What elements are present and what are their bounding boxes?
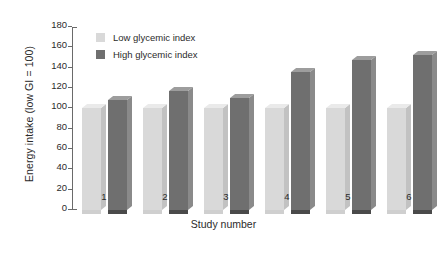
bar: [291, 72, 310, 210]
y-axis-tick-label: 40: [56, 161, 67, 172]
bar-side-face: [188, 87, 193, 210]
bar-side-face: [127, 96, 132, 210]
legend: Low glycemic indexHigh glycemic index: [96, 30, 197, 64]
x-axis-tick-label: 5: [333, 191, 363, 202]
y-axis-tick-label: 20: [56, 182, 67, 193]
x-axis-title: Study number: [0, 218, 447, 230]
x-axis-tick-label: 3: [211, 191, 241, 202]
y-axis-tick-label: 120: [51, 80, 67, 91]
bar: [352, 60, 371, 210]
bar-bottom-face: [387, 210, 406, 214]
bar-side-face: [432, 52, 437, 210]
bar-bottom-face: [82, 210, 101, 214]
legend-swatch-icon: [96, 33, 105, 42]
bar-front-face: [413, 55, 432, 210]
legend-label: Low glycemic index: [113, 32, 195, 43]
x-axis-tick-label: 4: [272, 191, 302, 202]
y-axis-tick-label: 100: [51, 100, 67, 111]
bar-bottom-face: [291, 210, 310, 214]
bar-bottom-face: [204, 210, 223, 214]
x-axis-tick-label: 6: [394, 191, 424, 202]
bar-bottom-face: [169, 210, 188, 214]
bar-bottom-face: [265, 210, 284, 214]
y-axis-tick-label: 80: [56, 121, 67, 132]
y-axis-tick-label: 180: [51, 19, 67, 30]
bar-bottom-face: [326, 210, 345, 214]
y-axis-title: Energy intake (low GI = 100): [23, 9, 35, 219]
bar-bottom-face: [230, 210, 249, 214]
y-axis-tick-label: 60: [56, 141, 67, 152]
bar-bottom-face: [143, 210, 162, 214]
bar-side-face: [249, 94, 254, 210]
legend-label: High glycemic index: [113, 49, 197, 60]
legend-item: High glycemic index: [96, 47, 197, 62]
bar-side-face: [371, 56, 376, 210]
bar-front-face: [352, 60, 371, 210]
x-axis-tick-label: 1: [89, 191, 119, 202]
y-axis-tick-label: 0: [62, 202, 67, 213]
bar-bottom-face: [352, 210, 371, 214]
bar-bottom-face: [108, 210, 127, 214]
y-axis-tick-label: 140: [51, 60, 67, 71]
bar-front-face: [291, 72, 310, 210]
x-axis-tick-label: 2: [150, 191, 180, 202]
y-axis-tick-label: 160: [51, 39, 67, 50]
chart-container: Energy intake (low GI = 100) 02040608010…: [0, 0, 447, 255]
bar: [413, 55, 432, 210]
legend-swatch-icon: [96, 50, 105, 59]
bar-bottom-face: [413, 210, 432, 214]
legend-item: Low glycemic index: [96, 30, 197, 45]
bar-side-face: [310, 68, 315, 210]
